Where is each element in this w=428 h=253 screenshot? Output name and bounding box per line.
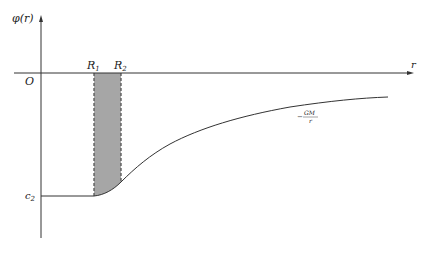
x-axis-label: r bbox=[411, 59, 417, 70]
curve-label: − GM r bbox=[297, 109, 318, 124]
shaded-region bbox=[94, 73, 121, 196]
r2-label: R2 bbox=[113, 59, 127, 73]
r-axis-arrow-icon bbox=[407, 71, 414, 75]
y-axis-arrow-icon bbox=[39, 15, 43, 22]
r1-label: R1 bbox=[86, 59, 100, 73]
c2-label: c2 bbox=[25, 190, 36, 203]
y-axis-label: φ(r) bbox=[12, 12, 34, 25]
origin-label: O bbox=[25, 75, 34, 88]
svg-text:GM: GM bbox=[304, 109, 316, 116]
svg-text:−: − bbox=[297, 113, 303, 121]
potential-curve bbox=[41, 97, 388, 196]
potential-diagram: φ(r) r O R1 R2 c2 − GM r bbox=[0, 0, 428, 253]
svg-text:r: r bbox=[309, 117, 313, 124]
